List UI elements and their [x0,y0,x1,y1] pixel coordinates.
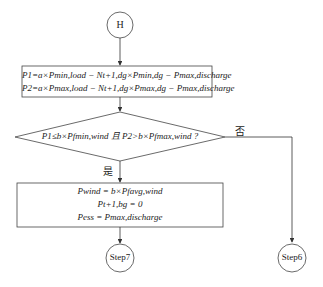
line-no-branch [225,137,292,242]
step6-label: Step6 [272,252,312,263]
start-node-label: H [108,19,132,30]
no-label: 否 [235,123,245,138]
process2-line1: Pwind = b×Pfavg,wind [17,186,223,197]
process2-line3: Pess = Pmax,discharge [17,212,223,223]
process1-line2: P2=a×Pmax,load − Nt+1,dg×Pmax,dg − Pmax,… [22,83,212,94]
step7-label: Step7 [100,252,140,263]
flowchart-canvas [0,0,323,287]
decision-condition: P1≤b×Pfmin,wind 且 P2>b×Pfmax,wind ? [30,131,210,142]
yes-label: 是 [103,163,113,178]
process1-line1: P1=a×Pmin,load − Nt+1,dg×Pmin,dg − Pmax,… [22,70,212,81]
process2-line2: Pt+1,bg = 0 [17,199,223,210]
